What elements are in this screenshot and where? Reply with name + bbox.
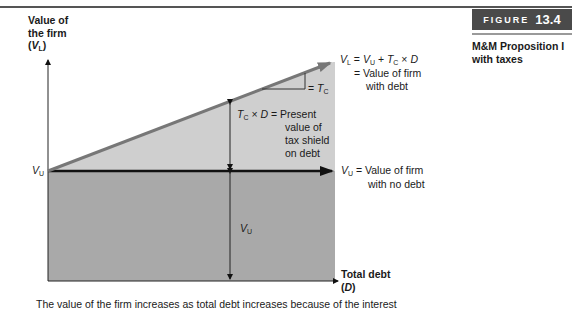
vu-axis-label: VU <box>32 164 44 181</box>
vu-line-label-line2: with no debt <box>368 178 425 191</box>
y-label-line3: (VL) <box>28 39 68 56</box>
x-axis-label: Total debt (D) <box>341 268 390 293</box>
x-label-line1: Total debt <box>341 268 390 281</box>
vl-description-line1: = Value of firm <box>354 67 421 80</box>
vl-description-line2: with debt <box>366 80 408 93</box>
tax-shield-line4: on debt <box>285 147 320 160</box>
y-axis-label: Value of the firm (VL) <box>28 14 68 56</box>
y-label-line1: Value of <box>28 14 68 27</box>
figure-caption: The value of the firm increases as total… <box>36 298 397 310</box>
x-label-line2: (D) <box>341 281 390 294</box>
unlevered-value-region <box>48 171 335 281</box>
y-label-line2: the firm <box>28 27 68 40</box>
tax-shield-line2: value of <box>285 121 322 134</box>
vu-area-label: VU <box>240 222 252 239</box>
tax-shield-line3: tax shield <box>285 134 329 147</box>
slope-label: = TC <box>308 82 329 99</box>
